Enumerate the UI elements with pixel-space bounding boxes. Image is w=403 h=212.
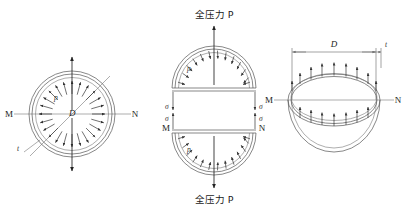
label-pressure-left: p [53, 93, 58, 102]
label-point-n-left: N [132, 109, 139, 119]
rim-ellipse-inner [291, 74, 377, 121]
label-pressure-lower: p [186, 145, 191, 154]
label-pressure-upper: p [186, 64, 191, 73]
label-sigma-lower-right: σ [259, 114, 263, 123]
figure-full-sphere-section: M N D p t [5, 57, 139, 171]
label-point-m-right: M [265, 95, 273, 105]
thickness-leader-line [24, 140, 40, 152]
label-thickness-left: t [17, 144, 20, 153]
label-sigma-lower-left: σ [165, 114, 169, 123]
technical-diagram-canvas: M N D p t [0, 0, 403, 212]
label-point-m-middle: M [162, 123, 170, 133]
label-sigma-upper-left: σ [165, 102, 169, 111]
diagram-svg: M N D p t [0, 0, 403, 212]
label-total-pressure-top: 全压力 P [195, 9, 234, 20]
figure-hemisphere-3d-view: D t [265, 39, 402, 152]
label-diameter-right: D [330, 39, 338, 49]
label-sigma-upper-right: σ [259, 102, 263, 111]
label-thickness-right: t [385, 40, 388, 49]
label-point-n-right: N [395, 95, 402, 105]
label-point-n-middle: N [259, 123, 266, 133]
label-point-m-left: M [5, 109, 13, 119]
label-diameter-left: D [68, 108, 76, 118]
figure-split-hemisphere-free-body: 全压力 P 全压力 P σ σ σ σ p p M N [162, 9, 266, 205]
label-total-pressure-bottom: 全压力 P [195, 194, 234, 205]
